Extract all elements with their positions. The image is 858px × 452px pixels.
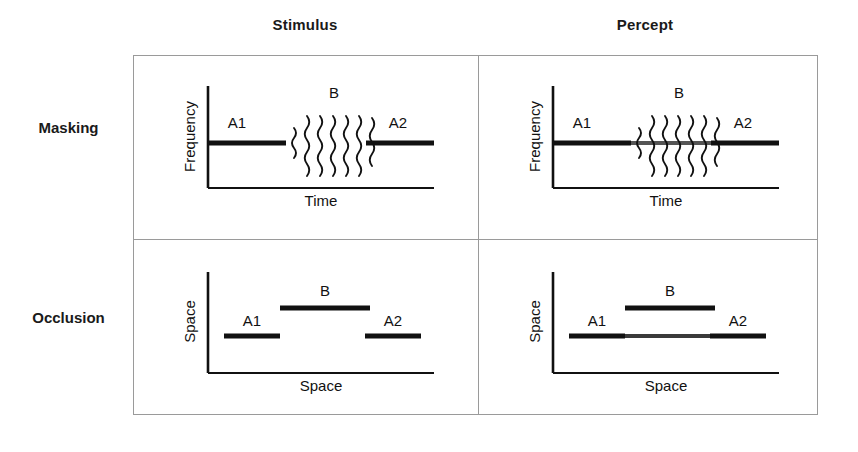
panel-grid: Frequency Time A1 B A2 (133, 55, 818, 415)
figure-root: Stimulus Percept Masking Occlusion (0, 0, 858, 452)
masking-percept-label-a1: A1 (562, 114, 602, 131)
occlusion-percept-x-axis-label: Space (616, 377, 716, 394)
occlusion-stimulus-label-a2: A2 (373, 312, 413, 329)
masking-stimulus-label-a1: A1 (217, 114, 257, 131)
masking-percept-label-a2: A2 (723, 114, 763, 131)
masking-stimulus-y-axis-label: Frequency (181, 87, 198, 187)
occlusion-percept-label-a1: A1 (577, 312, 617, 329)
occlusion-stimulus-x-axis-label: Space (271, 377, 371, 394)
panel-occlusion-percept: Space Space A1 B A2 (479, 240, 823, 423)
occlusion-stimulus-label-b: B (305, 282, 345, 299)
occlusion-stimulus-y-axis-label: Space (181, 272, 198, 372)
row-label-masking: Masking (6, 119, 131, 136)
masking-percept-x-axis-label: Time (616, 192, 716, 209)
masking-percept-y-axis-label: Frequency (526, 87, 543, 187)
column-header-stimulus: Stimulus (205, 16, 405, 33)
column-header-percept: Percept (545, 16, 745, 33)
masking-stimulus-label-b: B (314, 84, 354, 101)
panel-masking-percept: Frequency Time A1 B A2 (479, 56, 823, 239)
occlusion-percept-label-b: B (650, 282, 690, 299)
masking-stimulus-x-axis-label: Time (271, 192, 371, 209)
occlusion-percept-label-a2: A2 (718, 312, 758, 329)
masking-stimulus-label-a2: A2 (378, 114, 418, 131)
panel-masking-stimulus: Frequency Time A1 B A2 (134, 56, 478, 239)
row-label-occlusion: Occlusion (6, 309, 131, 326)
masking-percept-label-b: B (659, 84, 699, 101)
occlusion-percept-y-axis-label: Space (526, 272, 543, 372)
panel-occlusion-stimulus: Space Space A1 B A2 (134, 240, 478, 423)
occlusion-stimulus-label-a1: A1 (232, 312, 272, 329)
